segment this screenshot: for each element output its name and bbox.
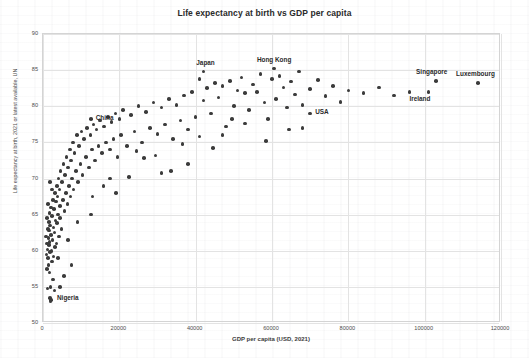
data-point	[80, 130, 84, 134]
data-point	[110, 120, 114, 124]
data-point	[47, 263, 51, 267]
gridline-horizontal	[43, 287, 499, 288]
data-point	[142, 156, 146, 160]
data-point	[114, 191, 118, 195]
data-point	[316, 78, 320, 82]
data-point	[205, 86, 209, 90]
data-point	[169, 169, 173, 173]
data-point	[408, 90, 412, 94]
x-axis-title: GDP per capita (USD, 2021)	[42, 336, 500, 342]
data-point	[108, 177, 112, 181]
data-point	[53, 231, 57, 235]
data-point	[60, 227, 64, 231]
data-point	[48, 180, 52, 184]
data-point	[125, 144, 129, 148]
data-point	[55, 221, 59, 225]
data-point	[56, 195, 60, 199]
data-point	[362, 91, 366, 95]
data-point	[81, 173, 85, 177]
data-point	[63, 173, 67, 177]
data-point	[148, 126, 152, 130]
data-point	[67, 184, 71, 188]
data-point	[74, 169, 78, 173]
data-point	[55, 184, 59, 188]
data-point	[102, 184, 106, 188]
data-point	[58, 188, 62, 192]
data-point	[52, 226, 56, 230]
data-point-nigeria	[49, 298, 53, 302]
data-point	[102, 125, 106, 129]
data-point	[73, 151, 77, 155]
data-point	[50, 260, 54, 264]
data-point	[392, 94, 396, 98]
data-point	[66, 166, 70, 170]
data-point	[119, 133, 123, 137]
data-point	[287, 128, 291, 132]
data-point	[68, 148, 72, 152]
data-point	[308, 87, 312, 91]
data-point	[264, 139, 268, 143]
data-point	[66, 238, 70, 242]
data-point	[82, 137, 86, 141]
data-point	[46, 256, 50, 260]
data-point	[129, 113, 133, 117]
data-point	[72, 188, 76, 192]
data-point	[62, 274, 66, 278]
data-point	[61, 198, 65, 202]
data-point	[121, 108, 125, 112]
data-point	[58, 216, 62, 220]
data-point-usa	[308, 112, 312, 116]
data-point	[339, 100, 343, 104]
data-point	[112, 137, 116, 141]
gridline-horizontal	[43, 215, 499, 216]
data-point	[57, 235, 61, 239]
data-point	[100, 151, 104, 155]
data-point-luxembourg	[476, 81, 480, 85]
gridline-horizontal	[43, 251, 499, 252]
data-point	[95, 128, 99, 132]
plot-area: ChinaJapanHong KongUSASingaporeLuxembour…	[42, 33, 500, 322]
data-point	[51, 278, 55, 282]
data-point	[53, 289, 57, 293]
data-point	[251, 83, 255, 87]
data-point	[135, 149, 139, 153]
data-point	[202, 99, 206, 103]
data-point	[47, 229, 51, 233]
data-point	[140, 141, 144, 145]
data-point	[331, 84, 335, 88]
data-point	[89, 133, 93, 137]
annotation-label-singapore: Singapore	[416, 68, 447, 75]
x-tick-label: 120000	[491, 325, 510, 331]
data-point	[175, 103, 179, 107]
data-point	[114, 112, 118, 116]
data-point	[49, 233, 53, 237]
data-point	[247, 108, 251, 112]
data-point	[194, 115, 198, 119]
x-tick-label: 40000	[187, 325, 203, 331]
data-point	[56, 256, 60, 260]
data-point	[232, 104, 236, 108]
scatter-chart: Life expectancy at birth vs GDP per capi…	[0, 0, 529, 358]
data-point	[324, 94, 328, 98]
gridline-horizontal	[43, 106, 499, 107]
data-point	[48, 271, 52, 275]
data-point	[266, 117, 270, 121]
gridline-horizontal	[43, 142, 499, 143]
x-axis-tick-labels: 020000400006000080000100000120000	[42, 323, 500, 337]
data-point	[240, 76, 244, 80]
data-point	[285, 106, 289, 110]
data-point	[108, 148, 112, 152]
data-point	[160, 106, 164, 110]
data-point	[377, 86, 381, 90]
data-point-ireland	[427, 90, 431, 94]
data-point	[60, 180, 64, 184]
data-point	[198, 77, 202, 81]
data-point	[289, 80, 293, 84]
data-point	[243, 91, 247, 95]
data-point	[52, 255, 56, 259]
data-point	[274, 97, 278, 101]
data-point	[84, 155, 88, 159]
data-point	[259, 72, 263, 76]
data-point	[69, 159, 73, 163]
data-point	[278, 74, 282, 78]
